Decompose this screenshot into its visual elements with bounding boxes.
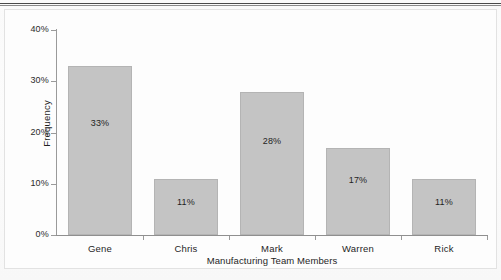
x-axis-tick-mark bbox=[315, 236, 316, 240]
y-axis-title: Frequency bbox=[41, 74, 52, 174]
x-axis-line bbox=[56, 235, 488, 236]
y-axis-tick-mark bbox=[51, 184, 56, 185]
x-axis-tick-mark bbox=[143, 236, 144, 240]
bar-value-label: 33% bbox=[69, 118, 131, 128]
bar-warren[interactable]: 17% bbox=[326, 148, 390, 235]
x-axis-label-gene: Gene bbox=[57, 243, 143, 254]
bar-value-label: 17% bbox=[327, 175, 389, 185]
bar-value-label: 11% bbox=[155, 197, 217, 207]
y-axis-tick-mark bbox=[51, 30, 56, 31]
x-axis-tick-mark bbox=[401, 236, 402, 240]
x-axis-title: Manufacturing Team Members bbox=[57, 255, 487, 266]
bar-chart-figure: 0%10%20%30%40% 33%11%28%17%11% GeneChris… bbox=[0, 0, 501, 280]
y-axis-tick-label: 0% bbox=[15, 229, 49, 239]
bar-rick[interactable]: 11% bbox=[412, 179, 476, 235]
plot-area: 33%11%28%17%11% bbox=[57, 30, 487, 235]
x-axis-tick-mark bbox=[229, 236, 230, 240]
x-axis-label-chris: Chris bbox=[143, 243, 229, 254]
bar-mark[interactable]: 28% bbox=[240, 92, 304, 236]
x-axis-label-rick: Rick bbox=[401, 243, 487, 254]
x-axis-label-warren: Warren bbox=[315, 243, 401, 254]
bar-gene[interactable]: 33% bbox=[68, 66, 132, 235]
x-axis-tick-mark bbox=[487, 236, 488, 240]
bar-chris[interactable]: 11% bbox=[154, 179, 218, 235]
y-axis-tick-label: 10% bbox=[15, 178, 49, 188]
y-axis-tick-mark bbox=[51, 81, 56, 82]
y-axis-tick-mark bbox=[51, 133, 56, 134]
bar-value-label: 28% bbox=[241, 136, 303, 146]
x-axis-label-mark: Mark bbox=[229, 243, 315, 254]
y-axis-tick-mark bbox=[51, 235, 56, 236]
y-axis-tick-label: 40% bbox=[15, 24, 49, 34]
top-divider-rule bbox=[0, 3, 501, 6]
bar-value-label: 11% bbox=[413, 197, 475, 207]
